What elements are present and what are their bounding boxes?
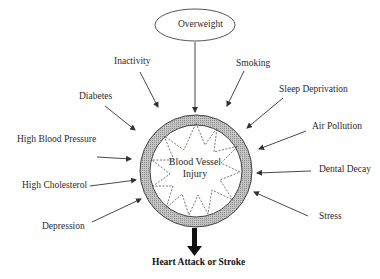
label-high-blood-pressure: High Blood Pressure (17, 134, 96, 145)
arrow-high-cholesterol (90, 180, 136, 186)
risk-factor-diagram: Overweight Inactivity Smoking Diabetes S… (0, 0, 380, 279)
outcome-label: Heart Attack or Stroke (152, 257, 245, 267)
arrow-depression (92, 199, 141, 222)
arrow-inactivity (140, 72, 158, 107)
arrow-smoking (227, 71, 244, 106)
label-diabetes: Diabetes (79, 91, 112, 102)
label-overweight: Overweight (178, 19, 223, 30)
label-depression: Depression (42, 221, 85, 232)
label-dental-decay: Dental Decay (319, 164, 371, 175)
center-label: Blood Vessel Injury (155, 156, 235, 180)
center-label-line2: Injury (155, 168, 235, 180)
label-inactivity: Inactivity (114, 56, 150, 67)
label-smoking: Smoking (236, 58, 270, 69)
label-sleep-deprivation: Sleep Deprivation (279, 84, 348, 95)
arrow-dental-decay (257, 171, 311, 173)
outcome-arrow (187, 228, 202, 256)
label-stress: Stress (319, 211, 342, 222)
arrow-air-pollution (259, 131, 306, 149)
arrow-stress (254, 192, 308, 216)
center-label-line1: Blood Vessel (155, 156, 235, 168)
arrow-sleep-deprivation (247, 98, 283, 128)
label-air-pollution: Air Pollution (312, 121, 362, 132)
arrow-high-blood-pressure (97, 157, 131, 159)
arrow-diabetes (105, 106, 135, 130)
label-high-cholesterol: High Cholesterol (22, 180, 87, 191)
